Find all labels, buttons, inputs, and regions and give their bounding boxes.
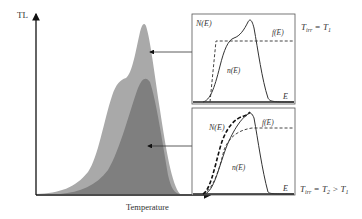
- ne-label-bottom: N(E): [208, 123, 225, 132]
- n-small-label-top: n(E): [227, 66, 241, 75]
- n-small-label-bottom: n(E): [232, 163, 246, 172]
- fe-label-top: f(E): [272, 28, 284, 37]
- fe-label-bottom: f(E): [262, 118, 274, 127]
- e-axis-label-top: E: [282, 92, 288, 101]
- x-axis-label: Temperature: [126, 202, 169, 212]
- ne-label-top: N(E): [195, 19, 212, 28]
- condition-label-top: Tirr = T1: [301, 22, 331, 33]
- y-axis-label: TL: [17, 10, 28, 20]
- tl-diagram: TL Temperature N(E) f(E) n(E) E Tirr = T…: [0, 0, 362, 219]
- condition-label-bottom: Tirr = T2 > T1: [300, 184, 349, 195]
- e-axis-label-bottom: E: [282, 184, 288, 193]
- panel-top: N(E) f(E) n(E) E: [192, 14, 295, 104]
- panel-bottom: N(E) f(E) n(E) E: [192, 108, 295, 195]
